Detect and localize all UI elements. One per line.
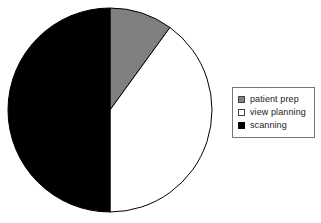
legend-label-view-planning: view planning: [250, 107, 306, 118]
legend-swatch-view-planning: [238, 109, 245, 116]
chart-legend: patient prep view planning scanning: [232, 87, 315, 138]
legend-item-patient-prep[interactable]: patient prep: [238, 93, 310, 106]
pie-slice-scanning[interactable]: [8, 8, 110, 212]
legend-item-view-planning[interactable]: view planning: [238, 106, 310, 119]
legend-swatch-scanning: [238, 122, 245, 129]
legend-swatch-patient-prep: [238, 96, 245, 103]
legend-label-patient-prep: patient prep: [250, 94, 299, 105]
pie-chart-figure: patient prep view planning scanning: [0, 0, 321, 223]
pie-chart: [0, 0, 223, 223]
legend-item-scanning[interactable]: scanning: [238, 119, 310, 132]
legend-label-scanning: scanning: [250, 120, 287, 131]
